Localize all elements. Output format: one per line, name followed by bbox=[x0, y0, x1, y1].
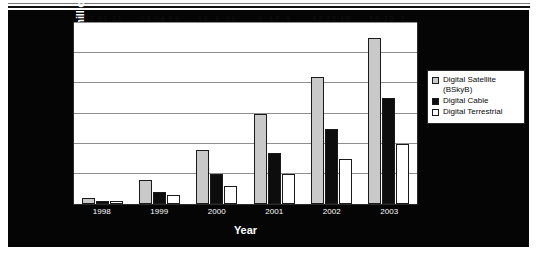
bar[interactable]: 4.2 bbox=[311, 77, 324, 204]
bar-wrapper: 2.5 bbox=[325, 23, 338, 204]
bar-wrapper: 0.6 bbox=[224, 23, 237, 204]
x-axis-tick-labels: 199819992000200120022003 bbox=[73, 207, 418, 216]
bar-value-label: 5.5 bbox=[369, 15, 379, 23]
top-divider bbox=[8, 6, 530, 8]
bar-value-label: 2.5 bbox=[326, 15, 336, 23]
legend-swatch-icon bbox=[432, 98, 439, 105]
bar[interactable]: 0.2 bbox=[82, 198, 95, 204]
bar-value-label: 3.5 bbox=[383, 15, 393, 23]
bar-wrapper: 5.5 bbox=[368, 23, 381, 204]
bar-group: 5.53.52 bbox=[368, 23, 409, 204]
x-tick-label: 2000 bbox=[188, 207, 246, 216]
x-axis-title: Year bbox=[73, 224, 418, 236]
legend-label: Digital Satellite (BSkyB) bbox=[443, 75, 496, 95]
bar-value-label: 1 bbox=[286, 15, 290, 23]
bar[interactable]: 1 bbox=[282, 174, 295, 204]
bar-group: 31.71 bbox=[254, 23, 295, 204]
bar-wrapper: 0.1 bbox=[96, 23, 109, 204]
bar-value-label: 4.2 bbox=[312, 15, 322, 23]
legend-swatch-icon bbox=[432, 109, 439, 116]
legend-label: Digital Cable bbox=[443, 96, 488, 106]
bar-group: 0.80.40.3 bbox=[139, 23, 180, 204]
x-tick-label: 1999 bbox=[131, 207, 189, 216]
bar[interactable]: 0.1 bbox=[96, 201, 109, 204]
bar-value-label: 0.3 bbox=[169, 15, 179, 23]
bar[interactable]: 1.7 bbox=[268, 153, 281, 204]
bar-groups: 0.20.10.10.80.40.31.810.631.714.22.51.55… bbox=[74, 23, 417, 204]
legend-swatch-icon bbox=[432, 77, 439, 84]
bar-group: 1.810.6 bbox=[196, 23, 237, 204]
bar-wrapper: 3.5 bbox=[382, 23, 395, 204]
bar[interactable]: 3 bbox=[254, 114, 267, 205]
bar-wrapper: 0.3 bbox=[167, 23, 180, 204]
bar-value-label: 0.4 bbox=[155, 15, 165, 23]
bar-value-label: 0.6 bbox=[226, 15, 236, 23]
legend-label: Digital Terrestrial bbox=[443, 107, 502, 117]
bar[interactable]: 1 bbox=[210, 174, 223, 204]
bar-wrapper: 4.2 bbox=[311, 23, 324, 204]
x-tick-label: 2002 bbox=[303, 207, 361, 216]
bar-value-label: 1.7 bbox=[269, 15, 279, 23]
bar-value-label: 2 bbox=[400, 15, 404, 23]
bar[interactable]: 0.6 bbox=[224, 186, 237, 204]
bar-wrapper: 2 bbox=[396, 23, 409, 204]
bar-value-label: 3 bbox=[258, 15, 262, 23]
bar-value-label: 0.8 bbox=[141, 15, 151, 23]
bar[interactable]: 5.5 bbox=[368, 38, 381, 204]
bar-value-label: 1.8 bbox=[198, 15, 208, 23]
legend-item[interactable]: Digital Satellite (BSkyB) bbox=[432, 75, 519, 95]
x-tick-label: 2001 bbox=[246, 207, 304, 216]
chart-legend: Digital Satellite (BSkyB)Digital CableDi… bbox=[427, 70, 525, 124]
top-divider-thin bbox=[8, 3, 530, 4]
bar-value-label: 0.1 bbox=[112, 15, 122, 23]
bar[interactable]: 1.8 bbox=[196, 150, 209, 204]
bar-wrapper: 0.4 bbox=[153, 23, 166, 204]
bar[interactable]: 3.5 bbox=[382, 98, 395, 204]
bar[interactable]: 2.5 bbox=[325, 129, 338, 204]
bar[interactable]: 1.5 bbox=[339, 159, 352, 204]
bar[interactable]: 0.1 bbox=[110, 201, 123, 204]
bar-value-label: 1 bbox=[215, 15, 219, 23]
bar-wrapper: 1.7 bbox=[268, 23, 281, 204]
bar-group: 4.22.51.5 bbox=[311, 23, 352, 204]
bar-wrapper: 0.8 bbox=[139, 23, 152, 204]
legend-item[interactable]: Digital Cable bbox=[432, 96, 519, 106]
bar-wrapper: 0.2 bbox=[82, 23, 95, 204]
bar-wrapper: 3 bbox=[254, 23, 267, 204]
bar-wrapper: 1 bbox=[210, 23, 223, 204]
legend-item[interactable]: Digital Terrestrial bbox=[432, 107, 519, 117]
bar-wrapper: 1.5 bbox=[339, 23, 352, 204]
bar-wrapper: 1.8 bbox=[196, 23, 209, 204]
bar-value-label: 0.1 bbox=[98, 15, 108, 23]
plot-area: 0.20.10.10.80.40.31.810.631.714.22.51.55… bbox=[73, 22, 418, 205]
x-tick-label: 2003 bbox=[361, 207, 419, 216]
bar[interactable]: 2 bbox=[396, 144, 409, 204]
bar[interactable]: 0.8 bbox=[139, 180, 152, 204]
bar-value-label: 1.5 bbox=[340, 15, 350, 23]
bar-wrapper: 0.1 bbox=[110, 23, 123, 204]
bar-value-label: 0.2 bbox=[84, 15, 94, 23]
bar[interactable]: 0.3 bbox=[167, 195, 180, 204]
chart-figure-panel: Number of households (millions) 0.20.10.… bbox=[8, 10, 529, 247]
bar[interactable]: 0.4 bbox=[153, 192, 166, 204]
bar-wrapper: 1 bbox=[282, 23, 295, 204]
x-tick-label: 1998 bbox=[73, 207, 131, 216]
bar-group: 0.20.10.1 bbox=[82, 23, 123, 204]
